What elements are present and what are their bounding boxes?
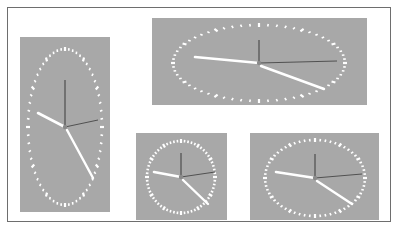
- tick-mark: [188, 141, 189, 144]
- tick-mark: [211, 191, 213, 192]
- tick-mark: [330, 141, 331, 143]
- tick-mark: [268, 24, 269, 27]
- tick-mark: [27, 119, 30, 120]
- tick-mark: [167, 143, 168, 145]
- tick-mark: [46, 58, 47, 62]
- tick-mark: [83, 193, 84, 197]
- wide-clock: [152, 18, 367, 105]
- tick-mark: [188, 211, 189, 214]
- tick-mark: [37, 74, 38, 76]
- tick-mark: [200, 34, 202, 35]
- tick-mark: [354, 155, 356, 156]
- tick-mark: [188, 40, 190, 41]
- tick-mark: [200, 91, 202, 92]
- tick-mark: [100, 110, 102, 111]
- tick-mark: [266, 166, 269, 167]
- tick-mark: [322, 37, 324, 38]
- tick-mark: [92, 74, 93, 76]
- tick-mark: [149, 162, 151, 163]
- tick-mark: [28, 143, 30, 144]
- tick-mark: [270, 158, 274, 160]
- tick-mark: [213, 169, 216, 170]
- tick-mark: [212, 165, 214, 166]
- tick-mark: [273, 155, 275, 156]
- tick-mark: [174, 211, 175, 214]
- tick-mark: [43, 63, 44, 65]
- tick-mark: [80, 197, 81, 200]
- tick-mark: [46, 193, 47, 197]
- tick-mark: [188, 85, 190, 86]
- tick-mark: [332, 82, 336, 83]
- tick-mark: [101, 119, 104, 120]
- tick-mark: [294, 142, 295, 144]
- tick-mark: [147, 165, 149, 166]
- tick-mark: [89, 68, 90, 70]
- tick-mark: [100, 143, 102, 144]
- tick-mark: [191, 142, 192, 144]
- tick-mark: [315, 91, 317, 92]
- tick-mark: [37, 178, 38, 180]
- tick-mark: [43, 189, 44, 191]
- tick-mark: [250, 24, 251, 27]
- tick-mark: [332, 44, 336, 45]
- tick-mark: [86, 189, 87, 191]
- tick-mark: [50, 54, 51, 57]
- tick-mark: [315, 34, 317, 35]
- tick-mark: [194, 143, 195, 145]
- tick-mark: [241, 99, 242, 101]
- tick-mark: [83, 58, 84, 62]
- tick-mark: [40, 68, 41, 70]
- tick-mark: [213, 184, 216, 185]
- tick-mark: [101, 135, 104, 136]
- tick-mark: [167, 209, 168, 211]
- clock-hub: [313, 176, 317, 180]
- tick-mark: [361, 166, 364, 167]
- tick-mark: [194, 37, 196, 38]
- tick-mark: [304, 140, 305, 143]
- tick-mark: [40, 184, 41, 186]
- tick-mark: [276, 99, 277, 101]
- tick-mark: [268, 193, 270, 194]
- tick-mark: [335, 212, 336, 214]
- tick-mark: [191, 210, 192, 212]
- tick-mark: [89, 184, 90, 186]
- tick-mark: [266, 189, 269, 190]
- tick-mark: [304, 214, 305, 217]
- tall-clock: [20, 37, 110, 212]
- tick-mark: [299, 141, 300, 143]
- tick-mark: [356, 196, 360, 198]
- tick-mark: [268, 162, 270, 163]
- tick-mark: [146, 184, 149, 185]
- tick-mark: [183, 44, 187, 45]
- tick-mark: [170, 142, 171, 144]
- tick-mark: [335, 142, 336, 144]
- tick-mark: [354, 200, 356, 201]
- tick-mark: [276, 25, 277, 27]
- tick-mark: [27, 135, 30, 136]
- clocks-illustration: [0, 0, 403, 238]
- medium-clock: [250, 133, 379, 220]
- tick-mark: [336, 47, 339, 48]
- tick-mark: [211, 162, 213, 163]
- tick-mark: [179, 47, 182, 48]
- tick-mark: [241, 25, 242, 27]
- tick-mark: [146, 169, 149, 170]
- tick-mark: [359, 193, 361, 194]
- tick-mark: [183, 82, 187, 83]
- tick-mark: [80, 54, 81, 57]
- tick-mark: [174, 141, 175, 144]
- clock-hub: [257, 61, 261, 65]
- tick-mark: [336, 78, 339, 79]
- tick-mark: [359, 162, 361, 163]
- tick-mark: [327, 85, 329, 86]
- tick-mark: [86, 63, 87, 65]
- tick-mark: [356, 158, 360, 160]
- tick-mark: [50, 197, 51, 200]
- tick-mark: [270, 196, 274, 198]
- tick-mark: [170, 210, 171, 212]
- tick-mark: [273, 200, 275, 201]
- tick-mark: [212, 188, 214, 189]
- tick-mark: [325, 140, 326, 143]
- tick-mark: [330, 213, 331, 215]
- tick-mark: [149, 191, 151, 192]
